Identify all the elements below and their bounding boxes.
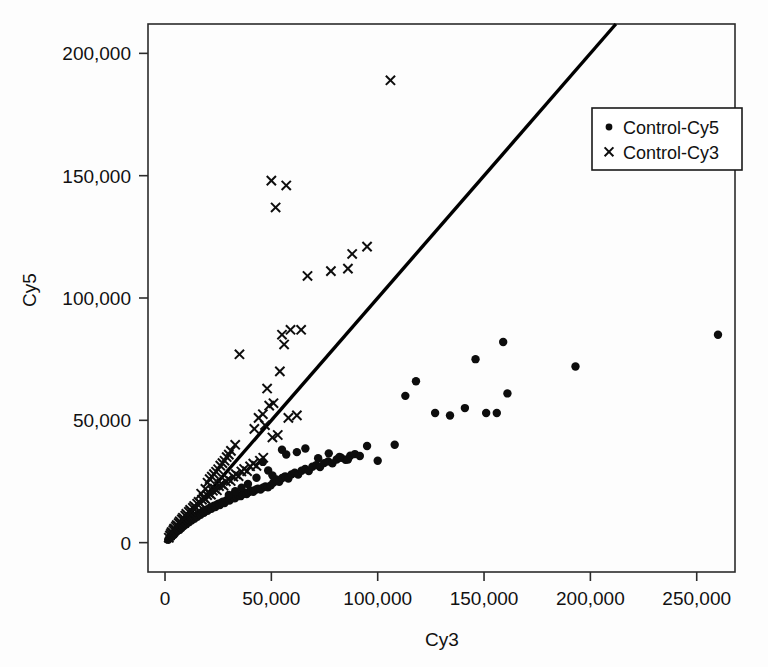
data-point-cross bbox=[348, 249, 357, 258]
x-tick-label: 150,000 bbox=[450, 588, 519, 609]
data-point-dot bbox=[225, 491, 233, 499]
data-point-cross bbox=[250, 424, 259, 433]
data-point-dot bbox=[293, 448, 301, 456]
data-point-dot bbox=[335, 453, 343, 461]
data-point-dot bbox=[356, 452, 364, 460]
series-control-cy3-points bbox=[164, 76, 395, 543]
data-point-cross bbox=[292, 411, 301, 420]
data-point-cross bbox=[343, 264, 352, 273]
chart-legend: Control-Cy5 Control-Cy3 bbox=[592, 108, 742, 170]
data-point-dot bbox=[252, 474, 260, 482]
data-point-dot bbox=[471, 355, 479, 363]
data-point-dot bbox=[374, 456, 382, 464]
x-axis-title: Cy3 bbox=[425, 629, 459, 650]
y-axis-tick-labels: 050,000100,000150,000200,000 bbox=[62, 43, 131, 553]
y-tick-label: 150,000 bbox=[62, 166, 131, 187]
data-point-dot bbox=[301, 444, 309, 452]
data-point-dot bbox=[499, 338, 507, 346]
data-point-dot bbox=[446, 411, 454, 419]
data-point-cross bbox=[258, 410, 267, 419]
y-tick-label: 200,000 bbox=[62, 43, 131, 64]
y-axis-title: Cy5 bbox=[19, 273, 40, 307]
x-tick-label: 0 bbox=[160, 588, 171, 609]
data-point-cross bbox=[280, 340, 289, 349]
data-point-dot bbox=[401, 392, 409, 400]
data-point-dot bbox=[314, 454, 322, 462]
data-point-dot bbox=[503, 389, 511, 397]
y-axis-ticks bbox=[139, 53, 148, 542]
x-tick-label: 100,000 bbox=[343, 588, 412, 609]
series-control-cy5-points bbox=[164, 331, 722, 544]
data-point-cross bbox=[303, 271, 312, 280]
data-point-cross bbox=[284, 413, 293, 422]
data-point-dot bbox=[482, 409, 490, 417]
data-point-cross bbox=[263, 384, 272, 393]
data-point-cross bbox=[271, 203, 280, 212]
data-point-dot bbox=[363, 442, 371, 450]
legend-dot-icon bbox=[606, 124, 613, 131]
data-point-cross bbox=[235, 350, 244, 359]
data-point-dot bbox=[282, 450, 290, 458]
data-point-dot bbox=[714, 331, 722, 339]
y-tick-label: 50,000 bbox=[73, 410, 131, 431]
y-tick-label: 100,000 bbox=[62, 288, 131, 309]
data-point-dot bbox=[412, 377, 420, 385]
scatter-plot-figure: 050,000100,000150,000200,000250,000 050,… bbox=[0, 0, 768, 667]
plot-canvas: 050,000100,000150,000200,000250,000 050,… bbox=[0, 0, 768, 667]
data-point-dot bbox=[461, 404, 469, 412]
x-tick-label: 250,000 bbox=[662, 588, 731, 609]
data-point-cross bbox=[277, 330, 286, 339]
y-tick-label: 0 bbox=[120, 533, 131, 554]
data-point-dot bbox=[571, 362, 579, 370]
data-point-cross bbox=[282, 181, 291, 190]
x-tick-label: 50,000 bbox=[242, 588, 300, 609]
data-point-dot bbox=[344, 455, 352, 463]
data-point-cross bbox=[275, 367, 284, 376]
data-point-cross bbox=[326, 266, 335, 275]
data-point-dot bbox=[431, 409, 439, 417]
data-point-cross bbox=[362, 242, 371, 251]
legend-label-control-cy5: Control-Cy5 bbox=[623, 118, 719, 138]
x-axis-ticks bbox=[165, 572, 697, 581]
data-point-cross bbox=[297, 325, 306, 334]
data-point-dot bbox=[268, 471, 276, 479]
data-point-cross bbox=[267, 176, 276, 185]
x-axis-tick-labels: 050,000100,000150,000200,000250,000 bbox=[160, 588, 731, 609]
data-point-dot bbox=[391, 441, 399, 449]
identity-reference-line bbox=[165, 24, 616, 543]
x-tick-label: 200,000 bbox=[556, 588, 625, 609]
data-point-dot bbox=[325, 449, 333, 457]
data-point-cross bbox=[386, 76, 395, 85]
legend-label-control-cy3: Control-Cy3 bbox=[623, 143, 719, 163]
data-point-dot bbox=[493, 409, 501, 417]
data-point-cross bbox=[286, 325, 295, 334]
